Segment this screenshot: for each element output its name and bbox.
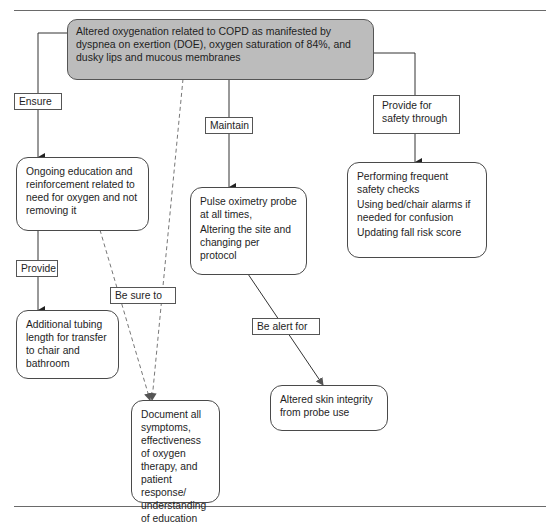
pulse-oximetry-line2: Altering the site and changing per proto… <box>200 223 298 262</box>
education-node: Ongoing education and reinforcement rela… <box>16 157 149 231</box>
label-maintain: Maintain <box>205 117 253 134</box>
document-node: Document all symptoms, effectiveness of … <box>131 400 220 503</box>
skin-integrity-text: Altered skin integrity from probe use <box>280 393 379 419</box>
pulse-oximetry-node: Pulse oximetry probe at all times, Alter… <box>190 187 307 275</box>
safety-item-2: Using bed/chair alarms if needed for con… <box>357 198 478 224</box>
root-diagnosis-text: Altered oxygenation related to COPD as m… <box>76 25 365 63</box>
edge-be-sure-root <box>152 79 183 400</box>
label-be-sure-to: Be sure to <box>110 287 176 304</box>
tubing-node: Additional tubing length for transfer to… <box>16 310 119 379</box>
label-provide: Provide <box>16 260 58 277</box>
education-text: Ongoing education and reinforcement rela… <box>26 165 140 217</box>
label-provide-for-safety: Provide for safety through <box>373 95 460 134</box>
label-ensure: Ensure <box>14 93 62 110</box>
safety-item-3: Updating fall risk score <box>357 226 478 239</box>
label-be-alert-for: Be alert for <box>252 318 320 335</box>
root-diagnosis-node: Altered oxygenation related to COPD as m… <box>67 19 374 80</box>
skin-integrity-node: Altered skin integrity from probe use <box>270 385 388 431</box>
pulse-oximetry-line1: Pulse oximetry probe at all times, <box>200 195 298 221</box>
safety-item-1: Performing frequent safety checks <box>357 170 478 196</box>
document-text: Document all symptoms, effectiveness of … <box>141 408 211 525</box>
tubing-text: Additional tubing length for transfer to… <box>26 318 110 370</box>
safety-node: Performing frequent safety checks Using … <box>347 162 487 258</box>
